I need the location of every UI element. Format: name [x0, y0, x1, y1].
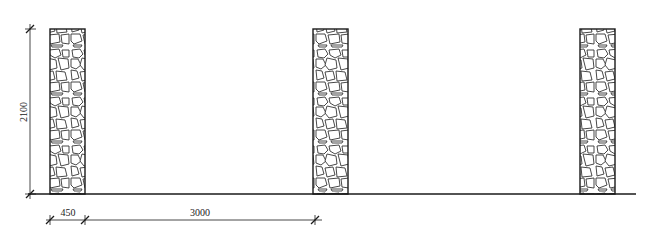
pillar-width-label: 450 — [61, 207, 76, 218]
pillar-2 — [313, 29, 348, 194]
width-dimension — [46, 215, 322, 225]
pillar-spacing-label: 3000 — [190, 207, 210, 218]
height-dimension-label: 2100 — [18, 102, 29, 122]
pillar-1 — [50, 29, 85, 194]
pillar-elevation-drawing: 2100 450 3000 — [0, 0, 656, 240]
pillar-3 — [580, 29, 615, 194]
